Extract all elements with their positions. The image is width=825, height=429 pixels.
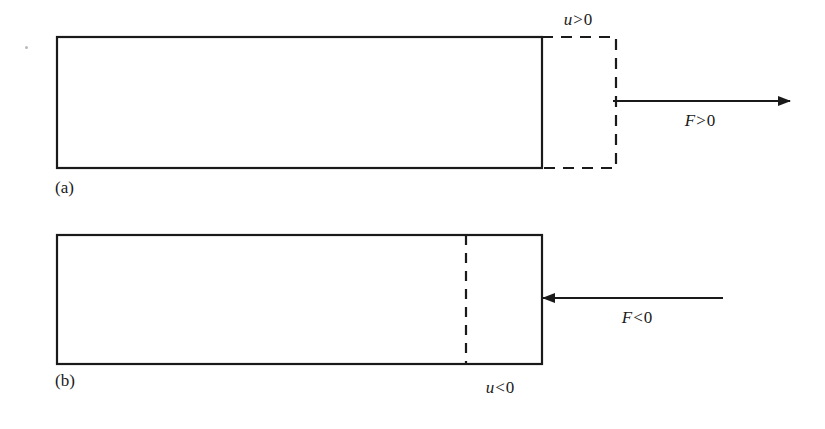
force-op-a: > [696,111,706,130]
bar-outline-a [57,37,542,168]
displacement-op-a: > [573,10,583,29]
displacement-op-b: < [495,378,505,397]
displacement-num-b: 0 [506,378,515,397]
bar-deformation-figure: u>0 F>0 (a) u<0 F<0 (b) [0,0,825,429]
displacement-label-b: u<0 [486,379,515,396]
force-var-a: F [685,111,695,130]
force-num-b: 0 [644,308,653,327]
force-var-b: F [622,308,632,327]
displacement-var-a: u [564,10,573,29]
force-label-a: F>0 [685,112,715,129]
bar-outline-b [57,235,542,364]
part-label-a: (a) [55,179,74,196]
displacement-label-a: u>0 [564,11,593,28]
force-op-b: < [633,308,643,327]
force-num-a: 0 [707,111,716,130]
force-label-b: F<0 [622,309,652,326]
scan-speck [25,46,28,49]
displacement-var-b: u [486,378,495,397]
displacement-num-a: 0 [584,10,593,29]
figure-drawing [0,0,825,429]
part-label-b: (b) [55,372,75,389]
dashed-extension-a [542,37,616,168]
